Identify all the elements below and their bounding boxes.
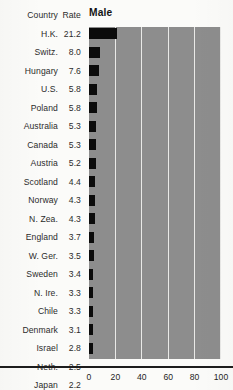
- country-label: N. Ire.: [0, 284, 58, 303]
- bar: [89, 47, 100, 58]
- bar: [89, 287, 93, 298]
- country-label: Canada: [0, 136, 58, 155]
- country-label: H.K.: [0, 25, 58, 44]
- country-label: U.S.: [0, 80, 58, 99]
- rate-value: 5.8: [60, 80, 81, 99]
- rate-value: 4.4: [60, 173, 81, 192]
- bar: [89, 102, 97, 113]
- chart-figure: Country Rate Male H.K.21.2Switz.8.0Hunga…: [0, 0, 233, 390]
- rate-value: 2.8: [60, 339, 81, 358]
- country-label: England: [0, 228, 58, 247]
- gridline: [220, 27, 221, 359]
- gridline: [141, 27, 142, 359]
- rate-value: 21.2: [60, 25, 81, 44]
- bar: [89, 158, 96, 169]
- bar: [89, 28, 117, 39]
- rate-value: 5.8: [60, 99, 81, 118]
- axis-rule: [0, 366, 233, 368]
- bar: [89, 269, 93, 280]
- column-header-rate: Rate: [60, 6, 81, 25]
- x-tick-label: 60: [163, 370, 173, 384]
- country-label: Denmark: [0, 321, 58, 340]
- bar: [89, 250, 94, 261]
- rate-value: 5.2: [60, 154, 81, 173]
- x-tick-label: 80: [190, 370, 200, 384]
- x-tick-label: 20: [111, 370, 121, 384]
- gridline: [168, 27, 169, 359]
- country-label: W. Ger.: [0, 247, 58, 266]
- bar: [89, 306, 93, 317]
- rate-value: 7.6: [60, 62, 81, 81]
- country-label: Chile: [0, 302, 58, 321]
- rate-value: 4.3: [60, 210, 81, 229]
- column-header-country: Country: [0, 6, 58, 25]
- bar: [89, 324, 93, 335]
- rate-value: 3.3: [60, 302, 81, 321]
- country-label: Sweden: [0, 265, 58, 284]
- bar: [89, 121, 96, 132]
- country-label: Switz.: [0, 43, 58, 62]
- rate-value: 3.4: [60, 265, 81, 284]
- rate-value: 3.3: [60, 284, 81, 303]
- x-tick-label: 40: [137, 370, 147, 384]
- rate-value: 3.5: [60, 247, 81, 266]
- bar: [89, 139, 96, 150]
- rate-value: 3.7: [60, 228, 81, 247]
- plot-area: [89, 27, 221, 359]
- country-label: Poland: [0, 99, 58, 118]
- bar: [89, 65, 99, 76]
- bar: [89, 84, 97, 95]
- rate-value: 3.1: [60, 321, 81, 340]
- bar: [89, 232, 94, 243]
- rate-value: 4.3: [60, 191, 81, 210]
- country-label: Norway: [0, 191, 58, 210]
- country-label: Australia: [0, 117, 58, 136]
- table-header-row: Country Rate: [0, 6, 233, 25]
- country-label: Israel: [0, 339, 58, 358]
- country-label: N. Zea.: [0, 210, 58, 229]
- x-tick-label: 0: [87, 370, 92, 384]
- bar: [89, 176, 95, 187]
- rate-value: 5.3: [60, 136, 81, 155]
- country-label: Austria: [0, 154, 58, 173]
- bar: [89, 195, 95, 206]
- rate-value: 5.3: [60, 117, 81, 136]
- bar: [89, 343, 93, 354]
- gridline: [194, 27, 195, 359]
- gridline: [115, 27, 116, 359]
- rate-value: 8.0: [60, 43, 81, 62]
- x-tick-label: 100: [214, 370, 228, 384]
- x-axis-ticklabels: 020406080100: [0, 370, 233, 386]
- bar: [89, 213, 95, 224]
- chart-title: Male: [89, 4, 112, 23]
- country-label: Scotland: [0, 173, 58, 192]
- country-label: Hungary: [0, 62, 58, 81]
